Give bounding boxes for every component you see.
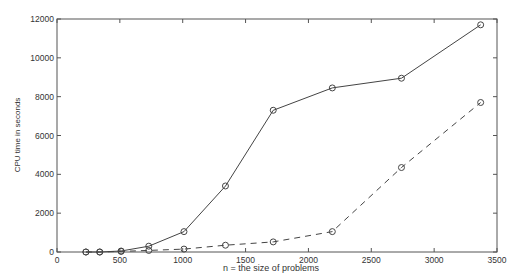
series-line (86, 103, 481, 253)
series-line (86, 25, 481, 252)
y-tick-label: 10000 (30, 53, 54, 63)
axes-frame (57, 19, 497, 252)
series-solid (83, 22, 484, 255)
series-layer (83, 22, 484, 255)
y-tick-label: 2000 (35, 208, 54, 218)
y-axis-label: CPU time in seconds (13, 98, 22, 173)
x-tick-label: 3000 (425, 255, 444, 265)
y-tick-label: 6000 (35, 131, 54, 141)
y-tick-label: 8000 (35, 92, 54, 102)
x-tick-label: 2500 (362, 255, 381, 265)
chart-container: 0500100015002000250030003500020004000600… (0, 0, 527, 280)
cpu-time-line-chart: 0500100015002000250030003500020004000600… (0, 0, 527, 280)
x-tick-label: 3500 (488, 255, 507, 265)
y-tick-label: 4000 (35, 169, 54, 179)
x-tick-label: 500 (113, 255, 127, 265)
x-tick-label: 1000 (173, 255, 192, 265)
y-tick-label: 12000 (30, 14, 54, 24)
series-dashed (83, 99, 484, 255)
x-axis-label: n = the size of problems (223, 263, 319, 273)
x-tick-label: 0 (55, 255, 60, 265)
plot-area (57, 19, 497, 252)
y-tick-label: 0 (49, 247, 54, 257)
